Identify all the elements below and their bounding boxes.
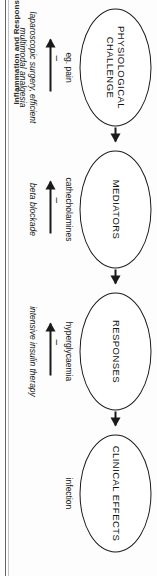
intervention-arrow-icon [49,181,51,233]
node-physiological-challenge: PHYSIOLOGICAL CHALLENGE [79,8,151,126]
intervention-arrow-icon [49,39,51,91]
arrow-mediators-to-responses [114,269,116,283]
descriptor-clinical-effects: infection [63,428,73,558]
node-label: CLINICAL EFFECTS [109,439,121,547]
figure-rotation-wrapper: PHYSIOLOGICAL CHALLENGE MEDIATORS RESPON… [0,0,157,576]
node-label: PHYSIOLOGICAL CHALLENGE [104,9,127,125]
arrow-responses-to-clinical-effects [114,411,116,425]
page-canvas: Inflammation and Responses PHYSIOLOGICAL… [0,0,157,576]
intervention-caption: intensive insulin therapy [27,276,37,426]
node-label: RESPONSES [109,313,121,388]
figure-stage: PHYSIOLOGICAL CHALLENGE MEDIATORS RESPON… [0,0,157,576]
intervention-caption: laparoscopic surgery, efficient multimod… [17,0,37,142]
descriptor-mediators: cathecholamines [63,144,73,274]
intervention-minus-sign: – [51,55,62,61]
node-mediators: MEDIATORS [79,150,151,268]
node-label: MEDIATORS [109,173,121,245]
intervention-arrow-icon [49,323,51,375]
node-responses: RESPONSES [79,292,151,410]
descriptor-physiological-challenge: eg. pain [63,2,73,132]
intervention-minus-sign: – [51,197,62,203]
arrow-challenge-to-mediators [114,127,116,141]
node-clinical-effects: CLINICAL EFFECTS [79,434,151,552]
intervention-caption: beta blockade [27,134,37,284]
intervention-minus-sign: – [51,339,62,345]
descriptor-responses: hyperglycaemia [63,286,73,416]
